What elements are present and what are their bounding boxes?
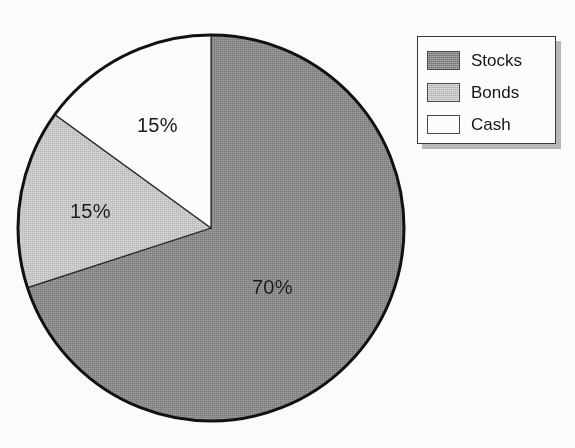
legend-item-cash[interactable]: Cash bbox=[427, 108, 555, 140]
chart-page: 70% 15% 15% Stocks Bonds Cash bbox=[0, 0, 575, 448]
legend-swatch-stocks bbox=[427, 51, 460, 70]
pie-svg bbox=[17, 34, 405, 422]
legend-item-bonds[interactable]: Bonds bbox=[427, 76, 555, 108]
pie-label-bonds: 15% bbox=[70, 200, 111, 223]
legend-label-cash: Cash bbox=[471, 116, 511, 133]
legend-swatch-bonds bbox=[427, 83, 460, 102]
legend-item-stocks[interactable]: Stocks bbox=[427, 44, 555, 76]
pie-label-cash: 15% bbox=[137, 114, 178, 137]
pie-chart bbox=[17, 34, 405, 422]
legend-label-bonds: Bonds bbox=[471, 84, 519, 101]
legend-label-stocks: Stocks bbox=[471, 52, 522, 69]
legend-swatch-cash bbox=[427, 115, 460, 134]
pie-label-stocks: 70% bbox=[252, 276, 293, 299]
chart-legend: Stocks Bonds Cash bbox=[417, 36, 556, 144]
